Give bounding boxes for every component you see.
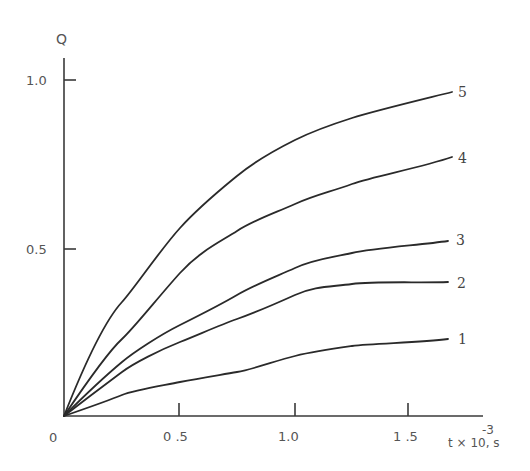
curve-label-3: 3	[456, 232, 465, 248]
x-tick-label-1-5: 1 .5	[393, 429, 418, 444]
origin-label: 0	[49, 430, 57, 445]
y-tick-label-0-5: 0.5	[26, 242, 47, 257]
curve-4	[64, 157, 452, 416]
curve-label-4: 4	[458, 150, 467, 166]
curve-3	[64, 241, 448, 416]
x-axis-title-exponent: -3	[482, 423, 494, 437]
x-tick-label-1-0: 1.0	[278, 429, 299, 444]
curve-label-2: 2	[457, 275, 466, 291]
x-tick-label-0-5: 0 .5	[163, 429, 188, 444]
y-axis-title: Q	[56, 31, 67, 47]
chart-canvas: Q 1.0 0.5 0 0 .5 1.0 1 .5 t × 10, s -3 5…	[0, 0, 530, 471]
curve-1	[64, 339, 448, 416]
y-tick-label-1-0: 1.0	[26, 73, 47, 88]
curve-label-5: 5	[458, 84, 467, 100]
curve-label-1: 1	[458, 331, 467, 347]
x-axis-title: t × 10, s	[448, 436, 500, 450]
